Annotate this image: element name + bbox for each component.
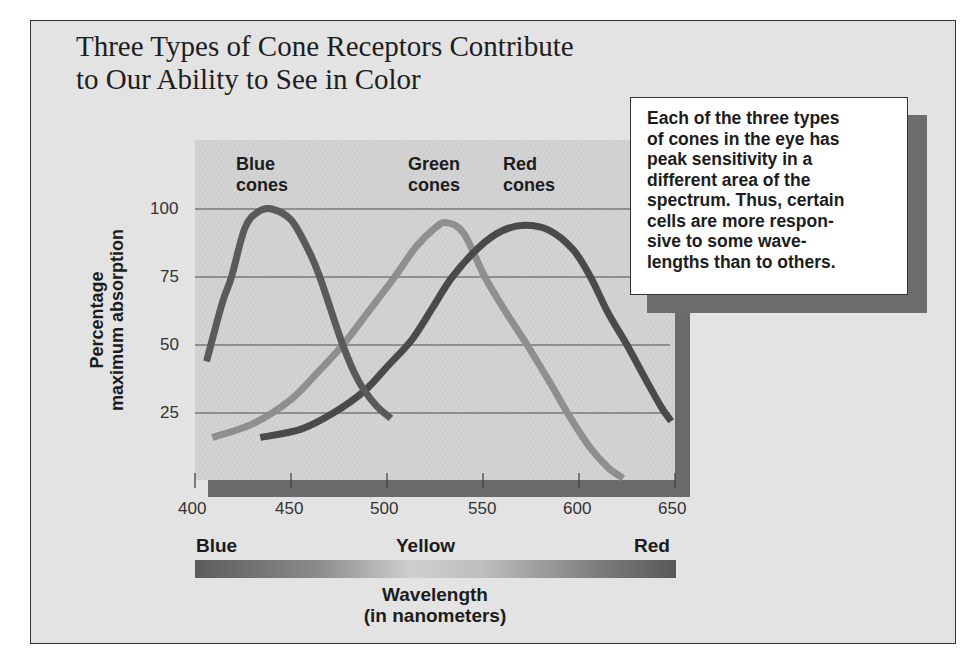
annotation-line: different area of the xyxy=(647,170,899,191)
spectrum-label-blue: Blue xyxy=(196,535,237,557)
y-tick-label: 100 xyxy=(150,199,178,219)
y-axis-title-line-2: maximum absorption xyxy=(107,220,127,420)
spectrum-label-red: Red xyxy=(634,535,670,557)
x-axis-title: Wavelength (in nanometers) xyxy=(300,584,570,626)
x-axis-bar xyxy=(208,480,690,497)
x-tick-label: 550 xyxy=(468,499,496,519)
label-line: Green xyxy=(408,154,460,175)
label-line: cones xyxy=(408,175,460,196)
annotation-box: Each of the three types of cones in the … xyxy=(630,97,908,295)
x-tick-label: 600 xyxy=(563,499,591,519)
label-line: Blue xyxy=(236,154,288,175)
annotation-line: peak sensitivity in a xyxy=(647,149,899,170)
y-tick-label: 50 xyxy=(160,335,179,355)
x-tick-label: 400 xyxy=(178,499,206,519)
spectrum-label-yellow: Yellow xyxy=(396,535,455,557)
spectrum-bar xyxy=(195,560,676,578)
label-line: Red xyxy=(503,154,555,175)
annotation-line: of cones in the eye has xyxy=(647,129,899,150)
red-cones-label: Red cones xyxy=(503,154,555,196)
blue-cones-label: Blue cones xyxy=(236,154,288,196)
x-tick-label: 450 xyxy=(275,499,303,519)
x-axis-title-line-2: (in nanometers) xyxy=(300,605,570,626)
y-axis-title: Percentage maximum absorption xyxy=(87,220,127,420)
right-axis-bar xyxy=(675,300,690,497)
y-axis-title-line-1: Percentage xyxy=(87,220,107,420)
annotation-line: sive to some wave- xyxy=(647,231,899,252)
annotation-line: spectrum. Thus, certain xyxy=(647,190,899,211)
label-line: cones xyxy=(503,175,555,196)
green-cones-label: Green cones xyxy=(408,154,460,196)
x-tick-label: 650 xyxy=(658,499,686,519)
annotation-line: cells are more respon- xyxy=(647,211,899,232)
label-line: cones xyxy=(236,175,288,196)
y-tick-label: 75 xyxy=(160,267,179,287)
x-axis-title-line-1: Wavelength xyxy=(300,584,570,605)
y-tick-label: 25 xyxy=(160,403,179,423)
annotation-line: Each of the three types xyxy=(647,108,899,129)
annotation-line: lengths than to others. xyxy=(647,252,899,273)
x-tick-label: 500 xyxy=(370,499,398,519)
